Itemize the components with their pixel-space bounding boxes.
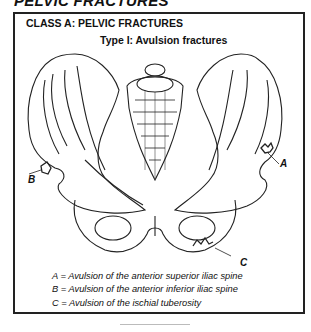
fracture-b xyxy=(41,162,51,174)
class-title: CLASS A: PELVIC FRACTURES xyxy=(26,17,183,29)
type-title: Type I: Avulsion fractures xyxy=(100,34,227,46)
legend-item-b: B = Avulsion of the anterior inferior il… xyxy=(52,283,243,296)
legend: A = Avulsion of the anterior superior il… xyxy=(52,270,243,310)
legend-item-a: A = Avulsion of the anterior superior il… xyxy=(52,270,243,283)
left-ilium xyxy=(28,54,145,213)
label-b: B xyxy=(28,174,35,185)
legend-item-c: C = Avulsion of the ischial tuberosity xyxy=(52,297,243,310)
caption-rule xyxy=(120,324,190,325)
page-header-title: PELVIC FRACTURES xyxy=(14,0,169,9)
label-a: A xyxy=(280,158,287,169)
fracture-a xyxy=(261,143,273,153)
right-ilium xyxy=(175,54,282,213)
pelvis-illustration xyxy=(15,50,295,270)
label-c: C xyxy=(240,257,247,268)
